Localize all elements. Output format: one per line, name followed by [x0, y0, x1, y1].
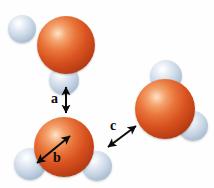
- annotation-label-c: c: [110, 119, 116, 133]
- annotation-label-a: a: [51, 92, 58, 106]
- oxygen-atom: [34, 117, 94, 177]
- molecule-stage: [0, 0, 214, 188]
- oxygen-atom: [37, 16, 95, 74]
- annotation-label-b: b: [53, 151, 61, 165]
- hydrogen-atom: [8, 15, 36, 43]
- water-hydrogen-bond-figure: a b c: [0, 0, 214, 188]
- oxygen-atom: [135, 79, 195, 139]
